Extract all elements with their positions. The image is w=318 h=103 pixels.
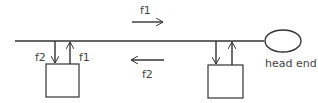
left-station-box	[46, 64, 79, 97]
left-station-f1-label: f1	[79, 51, 90, 64]
bus-diagram: head end f1 f2 f2 f1	[0, 0, 318, 103]
f2-direction-label: f2	[142, 68, 153, 81]
f1-direction-label: f1	[140, 4, 151, 17]
right-station-box	[208, 65, 243, 98]
left-station-f2-label: f2	[35, 51, 46, 64]
head-end-node	[265, 30, 301, 52]
head-end-label: head end	[265, 57, 317, 70]
